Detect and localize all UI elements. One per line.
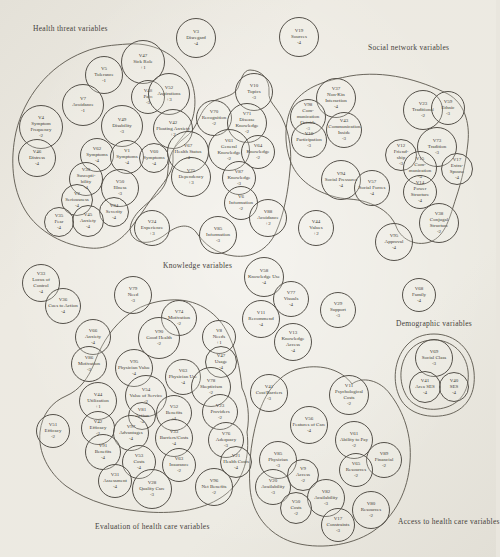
variable-node-text: V1 Symptoms -4 <box>116 148 137 166</box>
variable-node-text: V13 Knowledge Access -4 <box>276 330 309 354</box>
variable-node-text: V58 Knowledge Use -4 <box>248 268 280 286</box>
variable-node-text: V68 Family -4 <box>412 286 426 304</box>
variable-node-v96-net-benefits: V96 Net Benefits -2 <box>195 468 233 506</box>
demographic-cluster-label: Demographic variables <box>396 319 472 328</box>
variable-node-v3-disregard: V3 Disregard -4 <box>176 18 216 58</box>
variable-node-v43-communication-inside: V43 Communication Inside -3 <box>326 112 362 148</box>
variable-node-text: V51 Efficacy -2 <box>45 422 62 440</box>
variable-node-v63-insurance: V63 Insurance -2 <box>162 448 196 482</box>
variable-node-v17-extra-spouse: V17 Extra- Spouse -4 <box>441 153 473 185</box>
variable-node-v85-information: V85 Information -3 <box>199 216 237 254</box>
variable-node-text: V50 Illness -3 <box>113 179 126 197</box>
variable-node-v41-cost-barriers: V41 Cost/Barriers -3 <box>250 374 288 412</box>
variable-node-text: V31 Assessment -4 <box>103 472 127 490</box>
variable-node-text: V60 Symptoms -4 <box>143 149 164 167</box>
variable-node-text: V5 Tolerance -1 <box>94 66 114 84</box>
variable-node-text: V80 Resources -2 <box>361 501 382 519</box>
variable-node-v75-dependency: V75 Dependency +3 <box>171 157 211 197</box>
variable-node-v38-conjugal-structure: V38 Conjugal Structure -2 <box>419 203 459 243</box>
variable-node-text: V43 Communication Inside -3 <box>328 118 359 142</box>
variable-node-v17-constraints: V17 Constraints -3 <box>321 508 355 542</box>
variable-node-text: V62 Symptoms -4 <box>86 146 107 164</box>
variable-node-text: V50 Costs -2 <box>290 499 301 517</box>
variable-node-text: V21 Health Costs -4 <box>223 453 249 471</box>
social-network-cluster-label: Social network variables <box>368 43 449 52</box>
variable-node-text: V85 Information -3 <box>206 226 230 244</box>
variable-node-text: V8 Needs +1 <box>213 328 226 346</box>
variable-node-text: V59 Ethnic -3 <box>441 99 454 117</box>
variable-node-text: V70 Recognition -2 <box>202 109 226 127</box>
variable-node-v31-assessment: V31 Assessment -4 <box>98 464 132 498</box>
variable-node-text: V44 Utilization +1 <box>87 392 108 410</box>
variable-node-text: V95 Approval -4 <box>385 233 404 251</box>
variable-node-v45-anxiety: V45 Anxiety -4 <box>72 205 104 237</box>
variable-node-text: V86 Motivation -3 <box>78 355 100 373</box>
variable-node-text: V33 Barriers/Costs -4 <box>160 429 189 447</box>
variable-node-v35-fear: V35 Fear -4 <box>44 207 74 237</box>
variable-node-v13-knowledge-access: V13 Knowledge Access -4 <box>274 323 312 361</box>
variable-node-v59-ethnic: V59 Ethnic -3 <box>431 91 465 125</box>
variable-node-v40-ses: V40 SES -4 <box>439 372 469 402</box>
variable-node-text: V82 Availability -3 <box>314 489 338 507</box>
variable-node-text: V96 Net Benefits -2 <box>201 478 226 496</box>
variable-node-v51-efficacy: V51 Efficacy -2 <box>36 414 70 448</box>
variable-node-text: V47 Sick Role +1 <box>133 53 153 71</box>
variable-node-v60-symptoms: V60 Symptoms -4 <box>139 143 169 173</box>
variable-node-text: V88 Avoidance +2 <box>257 209 278 227</box>
variable-node-text: V16 Participation -3 <box>296 131 322 149</box>
variable-node-text: V57 Social Forces -4 <box>358 179 385 197</box>
variable-node-text: V38 Conjugal Structure -2 <box>422 211 457 235</box>
evaluation-cluster-label: Evaluation of health care variables <box>95 522 210 531</box>
variable-node-v65-resources: V65 Resources -2 <box>339 453 373 487</box>
variable-node-text: V24 Experience +3 <box>141 219 164 237</box>
variable-node-text: V65 Resources -2 <box>346 461 367 479</box>
variable-node-text: V41 Cost/Barriers -3 <box>256 384 283 402</box>
variable-node-v88-avoidance: V88 Avoidance +2 <box>249 199 287 237</box>
variable-node-text: V17 Constraints -3 <box>327 516 350 534</box>
variable-node-v86-motivation: V86 Motivation -3 <box>71 346 107 382</box>
variable-node-text: V40 SES -4 <box>450 378 459 396</box>
variable-node-text: V7 Avoidance -1 <box>72 96 93 114</box>
variable-node-v80-resources: V80 Resources -2 <box>352 491 390 529</box>
variable-node-v41-area-ses: V41 Area SES -4 <box>409 371 441 403</box>
variable-node-text: V75 Dependency +3 <box>179 168 204 186</box>
variable-node-text: V90 Good Health -2 <box>146 329 172 347</box>
variable-node-text: V37 Non-Kin Interaction -4 <box>319 86 354 110</box>
variable-node-text: V94 Social Pressures -4 <box>325 171 358 189</box>
variable-node-v68-family: V68 Family -4 <box>402 278 436 312</box>
variable-node-text: V34 Severity -4 <box>106 203 123 221</box>
variable-node-v11-recommend: V11 Recommend -4 <box>242 300 280 338</box>
variable-node-text: V36 Cues to Action -4 <box>48 297 78 315</box>
variable-node-text: V3 Disregard -4 <box>186 29 206 47</box>
variable-node-v57-social-forces: V57 Social Forces -4 <box>354 170 390 206</box>
variable-node-v29-support: V29 Support -3 <box>320 292 356 328</box>
variable-node-v7-avoidance: V7 Avoidance -1 <box>62 84 104 126</box>
variable-node-text: V6 Information -2 <box>229 194 253 212</box>
variable-node-v16-participation: V16 Participation -3 <box>291 122 327 158</box>
variable-node-text: V45 Anxiety -4 <box>80 212 96 230</box>
health-threat-cluster-label: Health threat variables <box>33 24 108 33</box>
variable-node-text: V53 Costs -4 <box>133 453 144 471</box>
variable-node-text: V29 Support -3 <box>330 301 346 319</box>
variable-node-v56-features-of-care: V56 Features of Care -4 <box>290 406 328 444</box>
variable-node-v46-distress: V46 Distress -4 <box>18 139 56 177</box>
variable-node-text: V69 Social Class -3 <box>422 349 447 367</box>
variable-node-text: V44 Values +2 <box>309 219 322 237</box>
variable-node-text: V28 Quality Care -3 <box>139 480 165 498</box>
variable-node-text: V14 Power Structure -4 <box>405 180 434 204</box>
variable-node-v24-experience: V24 Experience +3 <box>134 210 170 246</box>
variable-node-text: V91 Benefits -4 <box>95 443 112 461</box>
variable-node-v95-approval: V95 Approval -4 <box>375 223 413 261</box>
variable-node-text: V46 Distress -4 <box>29 149 45 167</box>
variable-node-text: V9 Access -2 <box>296 466 310 484</box>
variable-node-text: V19 Sources -4 <box>291 28 307 46</box>
variable-node-text: V64 Knowledge -2 <box>246 143 269 161</box>
variable-node-v79-need: V79 Need -3 <box>114 276 152 314</box>
variable-node-text: V56 Features of Care -4 <box>292 416 325 434</box>
knowledge-cluster-label: Knowledge variables <box>163 261 232 270</box>
variable-node-text: V41 Area SES -4 <box>415 378 435 396</box>
variable-node-v50-costs: V50 Costs -2 <box>280 492 312 524</box>
variable-node-text: V49 Disability -3 <box>112 117 132 135</box>
access-cluster-label: Access to health care variables <box>398 517 500 526</box>
